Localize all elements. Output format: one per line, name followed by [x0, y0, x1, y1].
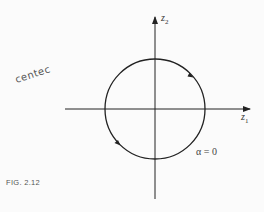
x-axis-label: z1 [241, 111, 248, 125]
y-axis-label: z2 [161, 12, 168, 26]
figure-caption: FIG. 2.12 [6, 178, 40, 187]
parameter-label: α = 0 [196, 146, 217, 157]
y-axis-label-sub: 2 [165, 18, 169, 26]
direction-arrow-icon [115, 140, 121, 146]
x-axis-label-sub: 1 [245, 117, 249, 125]
